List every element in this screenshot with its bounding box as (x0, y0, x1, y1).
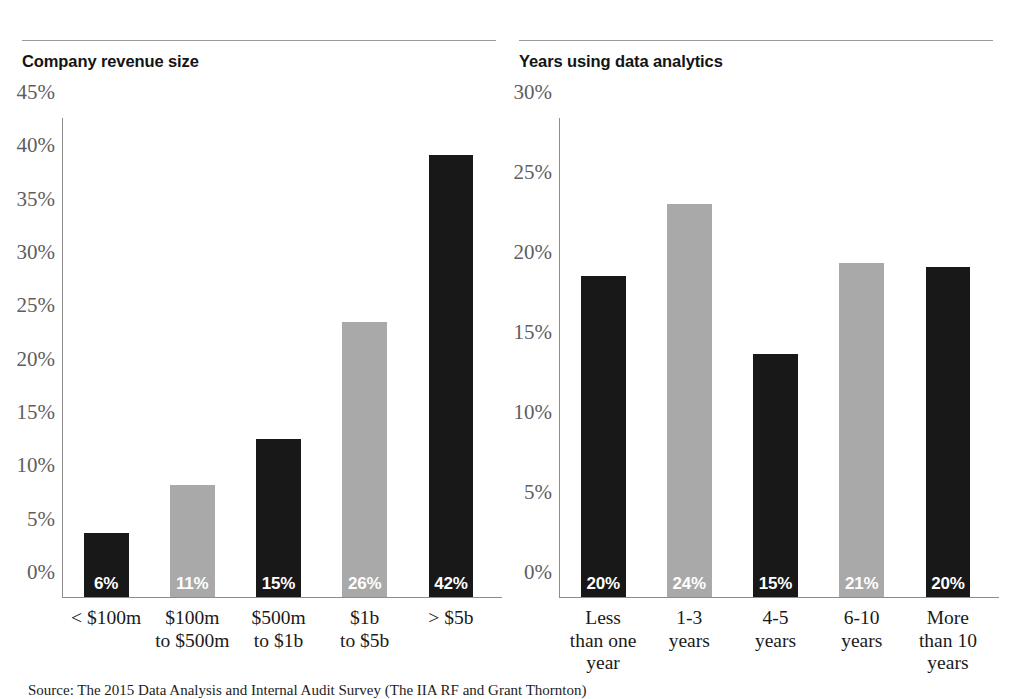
x-axis-line (62, 597, 502, 598)
bar-slot: 24% (646, 118, 732, 597)
page-title: Company revenue size (22, 52, 199, 71)
source-note: Source: The 2015 Data Analysis and Inter… (28, 681, 988, 699)
bar[interactable]: 24% (667, 204, 712, 597)
bar-slot: 6% (63, 118, 149, 597)
bar-value-label: 21% (845, 575, 878, 597)
x-axis-category-label: More than 10 years (905, 607, 991, 675)
y-axis-tick-label: 25% (17, 293, 56, 318)
panel-top-rule (22, 40, 496, 41)
x-axis-category-label: $1b to $5b (322, 607, 408, 652)
y-axis-tick-label: 5% (524, 480, 552, 505)
y-axis-tick-label: 40% (17, 133, 56, 158)
bar-value-label: 24% (673, 575, 706, 597)
bar-slot: 20% (560, 118, 646, 597)
plot-area-years-using-data-analytics: 0%5%10%15%20%25%30% 20%24%15%21%20% Less… (559, 118, 991, 598)
bar-series: 20%24%15%21%20% (560, 118, 991, 597)
x-axis-line (559, 597, 999, 598)
bar[interactable]: 20% (926, 267, 971, 598)
bar-value-label: 20% (586, 575, 619, 597)
y-axis-tick-label: 10% (17, 453, 56, 478)
x-axis-category-label: < $100m (63, 607, 149, 652)
bar-value-label: 15% (759, 575, 792, 597)
y-axis-tick-label: 15% (17, 400, 56, 425)
x-axis-labels: Less than one year1-3 years4-5 years6-10… (560, 607, 991, 675)
bar[interactable]: 15% (753, 354, 798, 597)
page-title: Years using data analytics (519, 52, 723, 71)
x-axis-category-label: $500m to $1b (235, 607, 321, 652)
bar[interactable]: 20% (581, 276, 626, 597)
bar-slot: 20% (905, 118, 991, 597)
bar-value-label: 6% (94, 575, 118, 597)
bar[interactable]: 21% (839, 263, 884, 597)
x-axis-category-label: Less than one year (560, 607, 646, 675)
bar[interactable]: 11% (170, 485, 215, 597)
y-axis-tick-label: 20% (514, 240, 553, 265)
y-axis-tick-label: 30% (17, 240, 56, 265)
bar-slot: 15% (732, 118, 818, 597)
bar-slot: 11% (149, 118, 235, 597)
chart-panel-years-using-data-analytics: Years using data analytics 0%5%10%15%20%… (519, 0, 999, 694)
bar-series: 6%11%15%26%42% (63, 118, 494, 597)
y-axis-tick-label: 10% (514, 400, 553, 425)
chart-panel-company-revenue-size: Company revenue size 0%5%10%15%20%25%30%… (22, 0, 502, 694)
x-axis-category-label: > $5b (408, 607, 494, 652)
bar-slot: 21% (819, 118, 905, 597)
bar-value-label: 11% (176, 575, 209, 597)
bar-value-label: 42% (434, 575, 467, 597)
bar[interactable]: 42% (429, 155, 474, 597)
bar[interactable]: 15% (256, 439, 301, 597)
y-axis-tick-label: 0% (524, 560, 552, 585)
bar-value-label: 20% (931, 575, 964, 597)
panel-top-rule (519, 40, 993, 41)
x-axis-category-label: 4-5 years (732, 607, 818, 675)
x-axis-category-label: 6-10 years (819, 607, 905, 675)
x-axis-labels: < $100m$100m to $500m$500m to $1b$1b to … (63, 607, 494, 652)
y-axis-tick-label: 15% (514, 320, 553, 345)
bar-value-label: 26% (348, 575, 381, 597)
y-axis-tick-label: 30% (514, 80, 553, 105)
bar-slot: 15% (235, 118, 321, 597)
bar[interactable]: 6% (84, 533, 129, 597)
bar[interactable]: 26% (342, 322, 387, 597)
x-axis-category-label: $100m to $500m (149, 607, 235, 652)
y-axis-tick-label: 35% (17, 187, 56, 212)
y-axis-tick-label: 25% (514, 160, 553, 185)
bar-value-label: 15% (262, 575, 295, 597)
y-axis-tick-label: 45% (17, 80, 56, 105)
plot-area-company-revenue-size: 0%5%10%15%20%25%30%35%40%45% 6%11%15%26%… (62, 118, 494, 598)
y-axis-tick-label: 20% (17, 347, 56, 372)
bar-slot: 26% (322, 118, 408, 597)
bar-slot: 42% (408, 118, 494, 597)
x-axis-category-label: 1-3 years (646, 607, 732, 675)
y-axis-tick-label: 5% (27, 507, 55, 532)
y-axis-tick-label: 0% (27, 560, 55, 585)
